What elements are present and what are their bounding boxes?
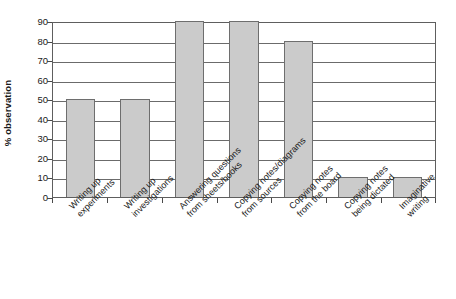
y-axis-tick-label: 40 xyxy=(22,115,48,125)
y-axis-tick-label: 20 xyxy=(22,154,48,164)
x-axis-tick-mark xyxy=(107,198,108,203)
y-axis-tick-label: 50 xyxy=(22,95,48,105)
x-axis-tick-mark xyxy=(271,198,272,203)
y-axis-tick-label: 80 xyxy=(22,37,48,47)
y-axis-tick-label: 30 xyxy=(22,134,48,144)
bar xyxy=(175,21,204,197)
y-axis-tick-labels: 9080706050403020100 xyxy=(22,22,48,198)
y-axis-title: % observation xyxy=(2,58,13,168)
y-axis-tick-label: 60 xyxy=(22,76,48,86)
y-axis-tick-label: 70 xyxy=(22,56,48,66)
y-axis-tick-label: 90 xyxy=(22,17,48,27)
x-axis-tick-mark xyxy=(326,198,327,203)
x-axis-tick-mark xyxy=(162,198,163,203)
x-axis-tick-mark xyxy=(435,198,436,203)
x-axis-tick-mark xyxy=(381,198,382,203)
y-axis-tick-label: 10 xyxy=(22,173,48,183)
x-axis-tick-mark xyxy=(52,198,53,203)
x-axis-tick-mark xyxy=(217,198,218,203)
y-axis-tick-label: 0 xyxy=(22,193,48,203)
bar-chart: % observation 9080706050403020100 Writin… xyxy=(0,0,456,299)
x-axis-category-labels: Writing upexperimentsWriting upinvestiga… xyxy=(52,204,436,299)
